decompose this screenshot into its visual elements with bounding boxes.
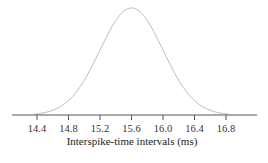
- x-tick-label: 16.0: [154, 123, 172, 134]
- x-tick-label: 14.4: [28, 123, 47, 134]
- x-tick-label: 15.2: [91, 123, 109, 134]
- x-tick-label: 14.8: [59, 123, 77, 134]
- x-tick-label: 16.4: [185, 123, 204, 134]
- x-axis-ticks: 14.414.815.215.616.016.416.8: [28, 115, 235, 134]
- x-tick-label: 16.8: [217, 123, 235, 134]
- x-axis-title: Interspike-time intervals (ms): [67, 135, 198, 148]
- distribution-curve: [34, 8, 229, 114]
- gaussian-chart: 14.414.815.215.616.016.416.8 Interspike-…: [0, 0, 268, 163]
- x-tick-label: 15.6: [122, 123, 140, 134]
